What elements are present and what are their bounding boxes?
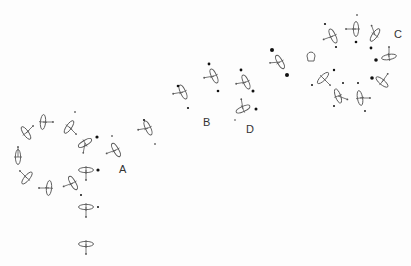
marker-dot bbox=[364, 110, 366, 112]
figure-canvas: ABDC bbox=[0, 0, 411, 266]
marker-dot bbox=[255, 108, 258, 111]
ellipse-arrow-glyph bbox=[79, 240, 94, 255]
marker-dot bbox=[370, 76, 374, 80]
cup-icon bbox=[307, 52, 315, 61]
marker-dot bbox=[187, 107, 189, 109]
ellipse-arrow-glyph bbox=[323, 28, 339, 44]
cluster-label-d: D bbox=[246, 124, 254, 135]
ellipse-arrow-glyph bbox=[79, 166, 94, 181]
marker-dot bbox=[252, 90, 255, 93]
marker-dot bbox=[208, 63, 211, 66]
marker-dot bbox=[370, 47, 373, 50]
ellipse-arrow-glyph bbox=[63, 119, 77, 135]
ellipse-arrow-glyph bbox=[38, 180, 53, 195]
ellipse-arrow-glyph bbox=[369, 25, 382, 43]
marker-dot bbox=[234, 119, 235, 120]
ellipse-arrow-glyph bbox=[172, 84, 188, 100]
marker-dot bbox=[96, 168, 99, 171]
marker-dot bbox=[95, 135, 98, 138]
marker-dot bbox=[324, 23, 326, 25]
ellipse-arrow-glyph bbox=[39, 114, 54, 129]
marker-dot bbox=[285, 73, 289, 77]
marker-dot bbox=[154, 143, 156, 145]
marker-dot bbox=[333, 69, 335, 71]
marker-dot bbox=[311, 84, 313, 86]
ellipse-arrow-glyph bbox=[106, 142, 122, 158]
ellipse-arrow-glyph bbox=[269, 54, 286, 70]
marker-dot bbox=[97, 206, 99, 208]
marker-dot bbox=[177, 85, 180, 88]
marker-dot bbox=[111, 135, 113, 137]
ellipse-arrow-glyph bbox=[375, 73, 390, 89]
ellipse-arrow-glyph bbox=[345, 22, 360, 37]
ellipse-arrow-glyph bbox=[381, 46, 397, 61]
ellipse-arrow-glyph bbox=[235, 98, 251, 114]
marker-dot bbox=[240, 69, 243, 72]
ellipse-arrow-glyph bbox=[20, 125, 34, 141]
ellipse-arrow-glyph bbox=[79, 203, 94, 218]
marker-dot bbox=[335, 46, 337, 48]
marker-dot bbox=[356, 14, 358, 16]
marker-dot bbox=[74, 111, 76, 113]
marker-dot bbox=[333, 105, 335, 107]
ellipse-arrow-glyph bbox=[333, 88, 348, 104]
ellipse-arrow-glyph bbox=[19, 170, 34, 185]
marker-dot bbox=[374, 58, 378, 62]
marker-dot bbox=[270, 48, 274, 52]
ellipse-arrow-glyph bbox=[203, 68, 219, 84]
ellipse-arrow-glyph bbox=[356, 90, 371, 106]
marker-dot bbox=[357, 82, 359, 84]
ellipse-arrow-glyph bbox=[77, 137, 93, 154]
marker-dot bbox=[217, 90, 220, 93]
glyph-diagram bbox=[0, 0, 411, 266]
ellipse-arrow-glyph bbox=[14, 146, 22, 164]
ellipse-arrow-glyph bbox=[137, 120, 153, 136]
ellipse-arrow-glyph bbox=[235, 74, 251, 90]
marker-dot bbox=[342, 82, 344, 84]
cluster-label-a: A bbox=[119, 164, 126, 175]
marker-dot bbox=[355, 41, 358, 44]
cluster-label-b: B bbox=[203, 117, 210, 128]
ellipse-arrow-glyph bbox=[316, 71, 331, 86]
ellipse-arrow-glyph bbox=[63, 175, 79, 191]
cluster-label-c: C bbox=[394, 29, 402, 40]
marker-dot bbox=[143, 119, 145, 121]
marker-dot bbox=[80, 194, 82, 196]
